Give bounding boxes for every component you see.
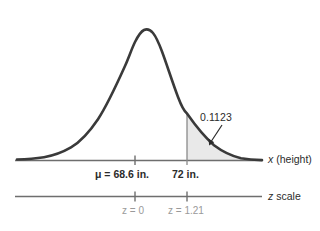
- x-axis-unit-text: (height): [276, 153, 312, 165]
- z-mean-label: z = 0: [122, 205, 144, 216]
- shaded-area-probability-label: 0.1123: [200, 111, 232, 123]
- z-axis-label: zscale: [268, 190, 301, 202]
- mean-value-label: μ = 68.6 in.: [95, 168, 149, 180]
- normal-curve: [17, 29, 262, 160]
- normal-distribution-figure: 0.1123 x(height) μ = 68.6 in. 72 in. zsc…: [0, 0, 320, 231]
- cutoff-value-label: 72 in.: [172, 168, 199, 180]
- x-axis-label: x(height): [268, 153, 312, 165]
- z-axis-variable-symbol: z: [268, 190, 273, 202]
- annotation-arrow-line: [211, 125, 223, 143]
- z-axis-name-text: scale: [276, 190, 301, 202]
- z-cutoff-label: z = 1.21: [168, 205, 204, 216]
- x-axis-variable-symbol: x: [268, 153, 273, 165]
